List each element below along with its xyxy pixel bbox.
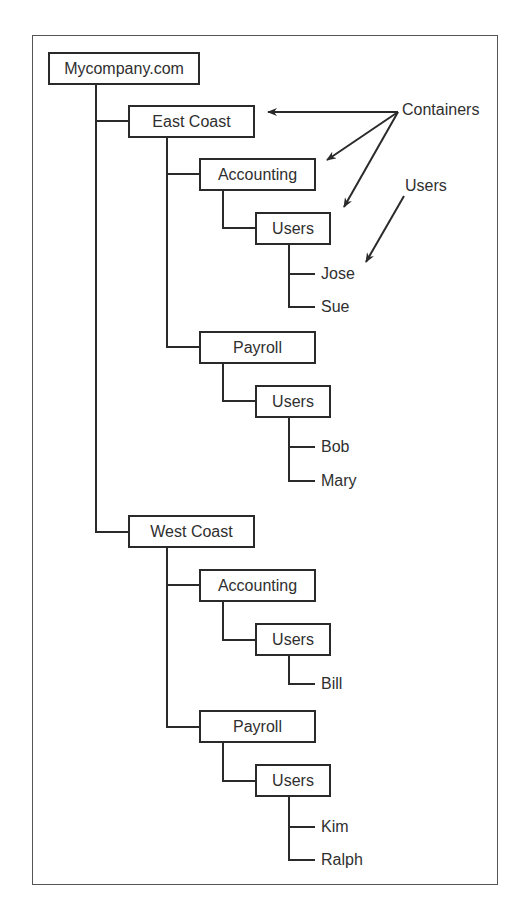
node-west-payroll: Payroll: [199, 710, 316, 743]
user-sue: Sue: [321, 298, 349, 316]
node-west-accounting: Accounting: [199, 569, 316, 602]
node-west-payroll-users: Users: [255, 764, 331, 797]
node-west-accounting-users: Users: [255, 623, 331, 656]
node-root: Mycompany.com: [48, 52, 200, 85]
user-jose: Jose: [321, 265, 355, 283]
user-kim: Kim: [321, 818, 349, 836]
node-east-payroll-users: Users: [255, 385, 331, 418]
user-bill: Bill: [321, 675, 342, 693]
label-containers: Containers: [402, 101, 479, 119]
node-east-payroll: Payroll: [199, 331, 316, 364]
node-east-coast: East Coast: [128, 105, 255, 138]
node-west-coast: West Coast: [128, 515, 255, 548]
node-east-accounting-users: Users: [255, 212, 331, 245]
user-mary: Mary: [321, 472, 357, 490]
user-bob: Bob: [321, 438, 349, 456]
user-ralph: Ralph: [321, 851, 363, 869]
label-users: Users: [405, 177, 447, 195]
node-east-accounting: Accounting: [199, 158, 316, 191]
